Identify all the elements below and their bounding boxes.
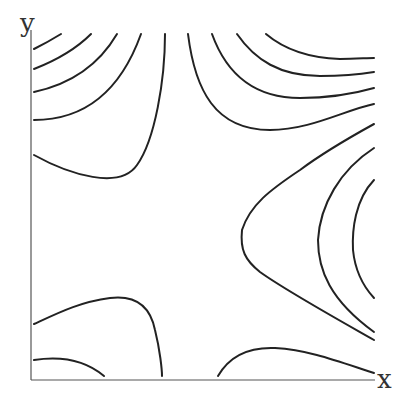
x-axis-label: x — [377, 364, 392, 394]
contours-right — [242, 124, 374, 340]
contour-plot: y x — [0, 0, 403, 412]
contours-top-right — [188, 34, 374, 130]
y-axis-label: y — [19, 8, 35, 38]
contours-bottom-left — [34, 297, 162, 376]
contours-bottom-right — [218, 348, 374, 376]
contours-top-left — [34, 34, 165, 178]
